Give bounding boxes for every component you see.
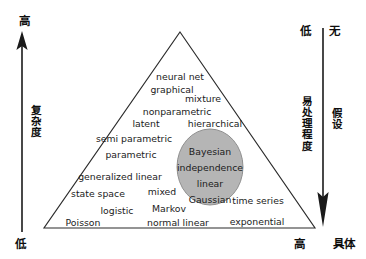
diagram-canvas: 高 低 复杂度 低 无 易处理程度 假设 高 具体 neural netgrap… (0, 0, 366, 259)
model-label: mixture (185, 94, 221, 103)
right-outer-axis-title: 假设 (330, 108, 343, 130)
model-label: semi parametric (96, 134, 172, 143)
model-label: hierarchical (188, 119, 242, 128)
model-label: latent (132, 119, 159, 128)
model-label: exponential (230, 217, 285, 226)
model-label: parametric (105, 150, 156, 159)
model-label: normal linear (147, 218, 209, 227)
right-inner-axis-top-label: 低 (300, 25, 311, 37)
model-label: nonparametric (143, 107, 212, 116)
right-inner-axis-title: 易处理程度 (300, 96, 313, 152)
model-label: time series (232, 196, 284, 205)
left-axis-bottom-label: 低 (15, 238, 26, 250)
left-axis-top-label: 高 (19, 15, 30, 27)
bottom-right-high-label: 高 (294, 238, 305, 250)
ellipse-label: Bayesian (189, 147, 231, 156)
left-axis-title: 复杂度 (29, 105, 42, 138)
model-label: mixed (148, 187, 176, 196)
model-label: neural net (156, 72, 204, 81)
ellipse-label: linear (197, 179, 223, 188)
right-axis-arrowhead-icon (317, 192, 328, 227)
right-outer-axis-top-label: 无 (329, 25, 340, 37)
ellipse-label: Gaussian (189, 195, 232, 204)
model-label: Markov (152, 204, 186, 213)
model-label: state space (71, 189, 125, 198)
model-label: Poisson (66, 218, 101, 227)
model-label: generalized linear (78, 172, 162, 181)
model-label: logistic (101, 206, 134, 215)
ellipse-label: independence (177, 163, 243, 172)
right-outer-axis-bottom-label: 具体 (333, 238, 355, 250)
